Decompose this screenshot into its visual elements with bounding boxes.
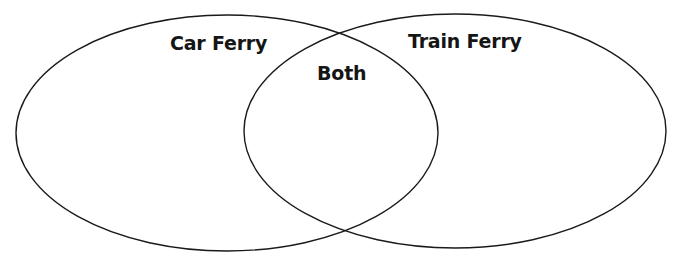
train-ferry-label: Train Ferry (408, 32, 522, 51)
both-label: Both (317, 64, 366, 83)
venn-svg (0, 0, 677, 263)
car-ferry-label: Car Ferry (170, 34, 267, 53)
